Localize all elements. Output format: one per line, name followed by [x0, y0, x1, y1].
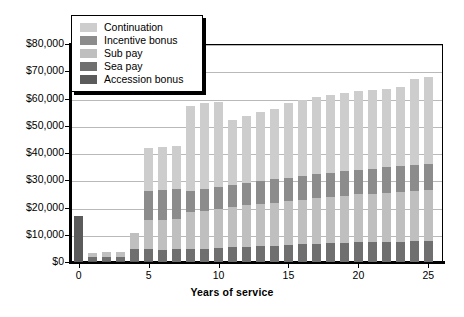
bar-segment	[326, 243, 334, 262]
bar-column	[382, 89, 390, 262]
bar-segment	[424, 164, 432, 190]
bar-column	[270, 109, 278, 262]
bar-column	[228, 120, 236, 262]
y-axis-tick-label: $40,000	[0, 147, 64, 158]
bar-segment	[200, 103, 208, 189]
bar-segment	[312, 174, 320, 198]
x-axis-tick-label: 5	[134, 269, 164, 281]
bar-segment	[228, 207, 236, 247]
y-axis-tick-mark	[65, 126, 70, 127]
bar-segment	[116, 261, 124, 262]
bar-column	[256, 112, 264, 262]
x-axis-tick-label: 10	[204, 269, 234, 281]
bar-segment	[186, 191, 194, 213]
bar-segment	[186, 106, 194, 190]
bar-column	[326, 95, 334, 262]
legend-item: Accession bonus	[80, 73, 196, 86]
legend-item: Continuation	[80, 21, 196, 34]
x-axis-tick-mark	[358, 263, 359, 268]
bar-segment	[284, 178, 292, 201]
y-axis-tick-label: $60,000	[0, 93, 64, 104]
bar-segment	[214, 102, 222, 186]
bar-column	[424, 77, 432, 262]
y-axis-tick-label: $20,000	[0, 202, 64, 213]
y-axis-tick-mark	[65, 44, 70, 45]
legend-swatch	[80, 36, 97, 45]
bar-column	[158, 147, 166, 262]
y-axis-tick-mark	[65, 71, 70, 72]
bar-segment	[284, 103, 292, 177]
bar-segment	[144, 148, 152, 191]
bar-column	[312, 97, 320, 262]
bar-segment	[396, 166, 404, 192]
legend-label: Incentive bonus	[104, 35, 178, 46]
bar-segment	[298, 176, 306, 200]
bar-column	[284, 103, 292, 262]
bar-column	[298, 100, 306, 262]
bar-segment	[172, 219, 180, 250]
bar-segment	[410, 241, 418, 262]
x-axis-tick-label: 25	[413, 269, 443, 281]
legend-item: Sea pay	[80, 60, 196, 73]
bar-segment	[298, 100, 306, 176]
bar-segment	[354, 242, 362, 262]
bar-segment	[424, 77, 432, 164]
bar-column	[172, 146, 180, 262]
legend-swatch	[80, 62, 97, 71]
bar-column	[102, 252, 110, 262]
bar-segment	[214, 187, 222, 209]
bar-segment	[256, 112, 264, 181]
bar-column	[186, 106, 194, 262]
bar-segment	[368, 90, 376, 168]
bar-segment	[354, 194, 362, 242]
legend-label: Sub pay	[104, 48, 143, 59]
y-axis-tick-mark	[65, 235, 70, 236]
y-axis-tick-label: $50,000	[0, 120, 64, 131]
bar-segment	[158, 250, 166, 262]
bar-segment	[158, 190, 166, 220]
bar-segment	[284, 201, 292, 245]
bar-segment	[158, 220, 166, 250]
bar-segment	[256, 204, 264, 246]
bar-segment	[186, 249, 194, 262]
x-axis-tick-mark	[79, 263, 80, 268]
y-axis-tick-label: $10,000	[0, 229, 64, 240]
bar-segment	[368, 169, 376, 194]
chart-legend: ContinuationIncentive bonusSub paySea pa…	[71, 15, 203, 92]
bar-column	[396, 87, 404, 262]
bar-segment	[228, 120, 236, 184]
bar-column	[88, 253, 96, 262]
bar-segment	[368, 194, 376, 243]
bar-segment	[410, 79, 418, 165]
bar-segment	[382, 89, 390, 168]
bar-segment	[326, 173, 334, 197]
bar-column	[130, 233, 138, 262]
legend-swatch	[80, 23, 97, 32]
bar-segment	[410, 165, 418, 191]
x-axis-title: Years of service	[0, 286, 464, 298]
bar-segment	[172, 249, 180, 262]
bar-segment	[340, 171, 348, 196]
y-axis-tick-label: $30,000	[0, 174, 64, 185]
bar-column	[354, 91, 362, 262]
bar-segment	[270, 246, 278, 262]
bar-column	[242, 116, 250, 262]
bar-segment	[326, 197, 334, 243]
y-axis-tick-mark	[65, 262, 70, 263]
bar-segment	[396, 192, 404, 242]
bar-segment	[270, 109, 278, 180]
bar-column	[214, 102, 222, 262]
bar-segment	[102, 261, 110, 262]
x-axis-tick-mark	[219, 263, 220, 268]
bar-segment	[354, 91, 362, 169]
legend-item: Incentive bonus	[80, 34, 196, 47]
bar-segment	[368, 242, 376, 262]
bar-column	[410, 79, 418, 262]
bar-column	[116, 252, 124, 262]
y-axis-tick-mark	[65, 208, 70, 209]
bar-segment	[242, 205, 250, 246]
bar-segment	[270, 179, 278, 202]
bar-segment	[312, 97, 320, 174]
legend-label: Continuation	[104, 22, 163, 33]
bar-segment	[382, 193, 390, 242]
